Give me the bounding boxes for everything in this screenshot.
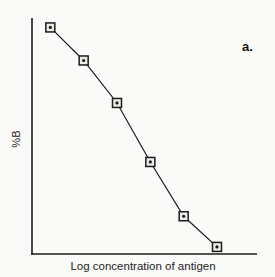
data-point-center-dot xyxy=(49,26,52,29)
data-point-center-dot xyxy=(215,245,218,248)
data-point-center-dot xyxy=(182,215,185,218)
data-line xyxy=(50,27,217,246)
data-point-center-dot xyxy=(149,160,152,163)
data-point-center-dot xyxy=(82,59,85,62)
chart-canvas xyxy=(0,0,275,277)
x-axis-label: Log concentration of antigen xyxy=(70,260,215,272)
y-axis-label: %B xyxy=(10,130,22,148)
panel-label: a. xyxy=(242,39,253,54)
data-point-center-dot xyxy=(115,101,118,104)
standard-curve-figure: %B Log concentration of antigen a. xyxy=(0,0,275,277)
